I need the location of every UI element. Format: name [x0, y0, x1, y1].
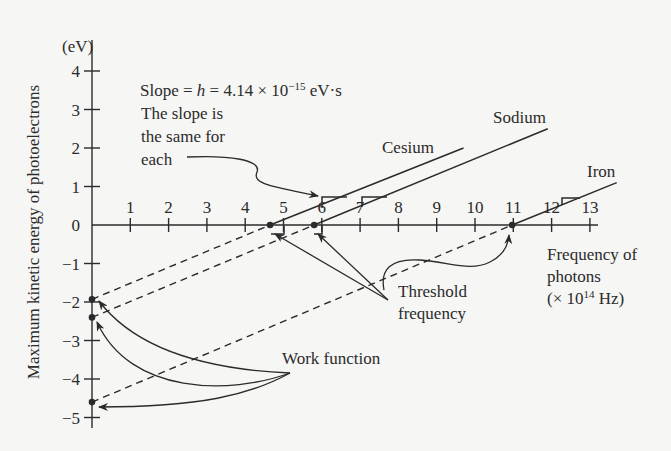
threshold-marker-cesium	[271, 226, 284, 234]
y-tick-label: −5	[62, 409, 80, 428]
extrapolation-sodium	[92, 225, 314, 317]
y-tick-label: 2	[72, 139, 81, 158]
slope-note-line2: the same for	[141, 127, 225, 146]
y-tick-label: −2	[62, 293, 80, 312]
work-function-point-sodium	[89, 314, 96, 321]
slope-triangle-sodium	[362, 197, 387, 207]
x-tick-label: 4	[241, 198, 250, 217]
work-function-arrow-cesium	[99, 301, 290, 373]
series-label-iron: Iron	[587, 162, 616, 181]
extrapolation-cesium	[92, 225, 270, 299]
y-tick-label: 3	[72, 101, 81, 120]
y-tick-label: 0	[72, 216, 81, 235]
x-tick-label: 8	[394, 198, 403, 217]
x-tick-label: 1	[126, 198, 135, 217]
x-tick-label: 13	[581, 198, 598, 217]
x-tick-label: 9	[432, 198, 441, 217]
plot-canvas: 12345678910111213 43210−1−2−3−4−5 (eV) M…	[0, 0, 671, 451]
y-tick-label: −4	[62, 370, 81, 389]
slope-note-arrow	[187, 157, 318, 196]
slope-note-line3: each	[141, 150, 173, 169]
threshold-point-cesium	[267, 222, 274, 229]
series-label-sodium: Sodium	[493, 108, 546, 127]
y-ticks: 43210−1−2−3−4−5	[62, 62, 100, 428]
x-axis-title-line2: photons	[547, 267, 601, 286]
series-label-cesium: Cesium	[382, 138, 434, 157]
work-function-point-iron	[89, 399, 96, 406]
x-tick-label: 10	[467, 198, 484, 217]
threshold-point-sodium	[311, 222, 318, 229]
x-axis-title-line1: Frequency of	[547, 245, 638, 264]
x-axis-title-line3: (× 1014 Hz)	[547, 288, 624, 308]
slope-annotation: Slope = h = 4.14 × 10−15 eV·s	[140, 80, 342, 100]
x-tick-label: 5	[279, 198, 288, 217]
y-unit-label: (eV)	[62, 37, 93, 56]
threshold-label-line2: frequency	[398, 304, 466, 323]
y-tick-label: 1	[72, 178, 81, 197]
y-tick-label: 4	[72, 62, 81, 81]
y-axis-title: Maximum kinetic energy of photoelectrons	[24, 85, 43, 379]
y-tick-label: −3	[62, 332, 80, 351]
threshold-point-iron	[509, 222, 516, 229]
series-line-iron	[512, 183, 617, 225]
slope-note-line1: The slope is	[141, 104, 223, 123]
x-tick-label: 11	[505, 198, 521, 217]
work-function-label: Work function	[282, 349, 381, 368]
work-function-point-cesium	[89, 296, 96, 303]
x-tick-label: 3	[203, 198, 212, 217]
threshold-arrow-cesium	[275, 234, 388, 300]
photoelectric-effect-diagram: 12345678910111213 43210−1−2−3−4−5 (eV) M…	[0, 0, 671, 451]
threshold-label-line1: Threshold	[398, 282, 467, 301]
work-function-arrow-iron	[99, 373, 290, 407]
threshold-arrow-sodium	[318, 234, 388, 300]
x-tick-label: 12	[543, 198, 560, 217]
y-tick-label: −1	[62, 255, 80, 274]
x-tick-label: 2	[164, 198, 173, 217]
